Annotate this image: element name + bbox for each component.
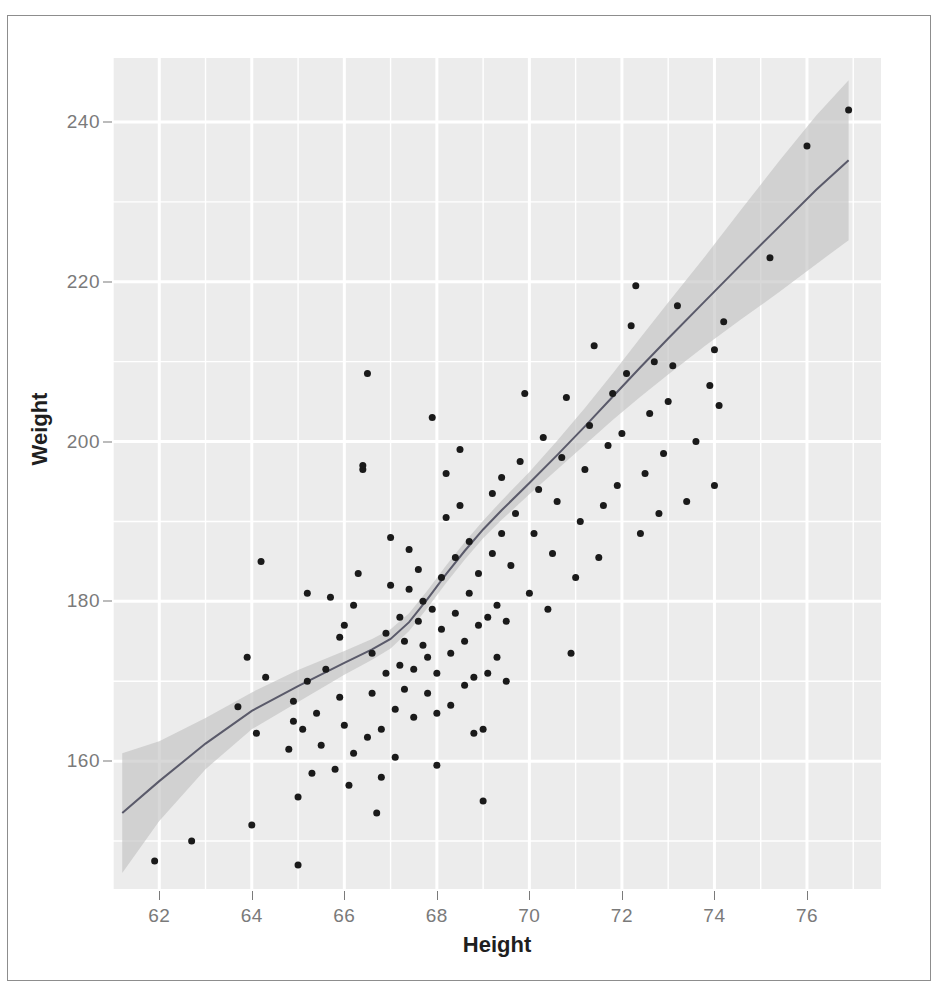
plot-data-layer [113,58,881,889]
x-tick-mark [252,891,253,900]
x-tick-label: 74 [679,905,749,927]
y-tick-label: 220 [40,271,100,293]
x-axis-title: Height [113,932,881,958]
x-tick-mark [714,891,715,900]
x-tick-label: 70 [494,905,564,927]
x-tick-label: 66 [309,905,379,927]
x-tick-mark [344,891,345,900]
x-tick-mark [159,891,160,900]
plot-panel [113,58,881,889]
figure-frame: 160180200220240 Weight 6264666870727476 … [7,15,931,981]
y-tick-label: 180 [40,590,100,612]
y-tick-label: 240 [40,111,100,133]
y-tick-mark [103,761,112,762]
y-axis-title: Weight [27,349,53,509]
x-tick-label: 64 [217,905,287,927]
x-tick-mark [437,891,438,900]
x-tick-mark [622,891,623,900]
y-tick-label: 160 [40,750,100,772]
x-tick-mark [807,891,808,900]
y-tick-mark [103,281,112,282]
y-tick-mark [103,121,112,122]
x-tick-label: 68 [402,905,472,927]
scatter-plot: 160180200220240 Weight 6264666870727476 … [8,16,932,982]
y-tick-mark [103,601,112,602]
x-tick-label: 76 [772,905,842,927]
x-tick-label: 72 [587,905,657,927]
y-tick-mark [103,441,112,442]
x-tick-mark [529,891,530,900]
x-tick-label: 62 [124,905,194,927]
